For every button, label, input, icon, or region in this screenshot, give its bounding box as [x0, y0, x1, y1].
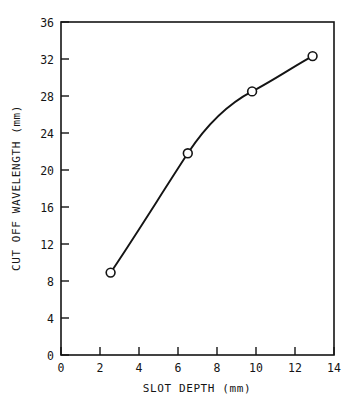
chart-figure: 0 4 8 12 16 20 24 28 32 36 0 2 4 6 — [0, 0, 354, 408]
y-tick-label: 32 — [40, 53, 54, 67]
y-axis-ticks — [61, 22, 69, 355]
x-tick-label: 0 — [58, 361, 65, 375]
y-tick-label: 20 — [40, 164, 54, 178]
x-tick-label: 4 — [136, 361, 143, 375]
x-axis-tick-labels: 0 2 4 6 8 10 12 14 — [58, 361, 341, 375]
y-tick-label: 4 — [47, 312, 54, 326]
y-tick-label: 24 — [40, 127, 54, 141]
x-axis-ticks — [61, 347, 334, 355]
y-tick-label: 12 — [40, 238, 54, 252]
y-tick-label: 28 — [40, 90, 54, 104]
x-tick-label: 6 — [175, 361, 182, 375]
y-axis-tick-labels: 0 4 8 12 16 20 24 28 32 36 — [40, 16, 54, 363]
data-point-marker — [248, 87, 257, 96]
data-series-line — [111, 56, 313, 273]
x-tick-label: 14 — [327, 361, 341, 375]
y-tick-label: 8 — [47, 275, 54, 289]
data-point-marker — [106, 268, 115, 277]
y-tick-label: 0 — [47, 349, 54, 363]
y-axis-title: CUT OFF WAVELENGTH (mm) — [10, 105, 23, 271]
x-tick-label: 8 — [214, 361, 221, 375]
x-tick-label: 2 — [97, 361, 104, 375]
data-markers — [106, 52, 317, 277]
y-tick-label: 36 — [40, 16, 54, 30]
data-point-marker — [183, 149, 192, 158]
plot-frame — [61, 22, 334, 355]
x-tick-label: 10 — [249, 361, 263, 375]
y-tick-label: 16 — [40, 201, 54, 215]
chart-plot-area: 0 4 8 12 16 20 24 28 32 36 0 2 4 6 — [0, 0, 354, 408]
x-axis-title: SLOT DEPTH (mm) — [143, 382, 251, 395]
x-tick-label: 12 — [288, 361, 302, 375]
data-point-marker — [308, 52, 317, 61]
